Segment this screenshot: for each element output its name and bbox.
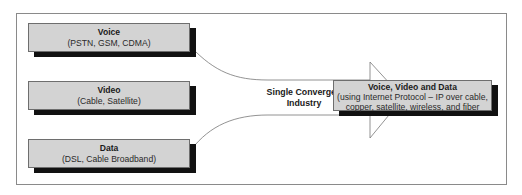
source-subtitle: (Cable, Satellite) [29, 96, 189, 107]
arrow-label-line2: Industry [287, 98, 322, 108]
target-box: Voice, Video and Data (using Internet Pr… [333, 80, 492, 111]
target-subtitle-line1: (using Internet Protocol – IP over cable… [334, 92, 491, 102]
source-title: Voice [29, 27, 189, 38]
source-title: Data [29, 143, 189, 154]
source-box-voice: Voice (PSTN, GSM, CDMA) [28, 23, 190, 52]
source-title: Video [29, 85, 189, 96]
source-box-data: Data (DSL, Cable Broadband) [28, 139, 190, 168]
source-subtitle: (DSL, Cable Broadband) [29, 154, 189, 165]
target-title: Voice, Video and Data [334, 82, 491, 92]
source-box-video: Video (Cable, Satellite) [28, 81, 190, 110]
arrow-label-line1: Single Converged [267, 87, 342, 97]
target-subtitle-line2: copper, satellite, wireless, and fiber [334, 102, 491, 112]
source-subtitle: (PSTN, GSM, CDMA) [29, 38, 189, 49]
